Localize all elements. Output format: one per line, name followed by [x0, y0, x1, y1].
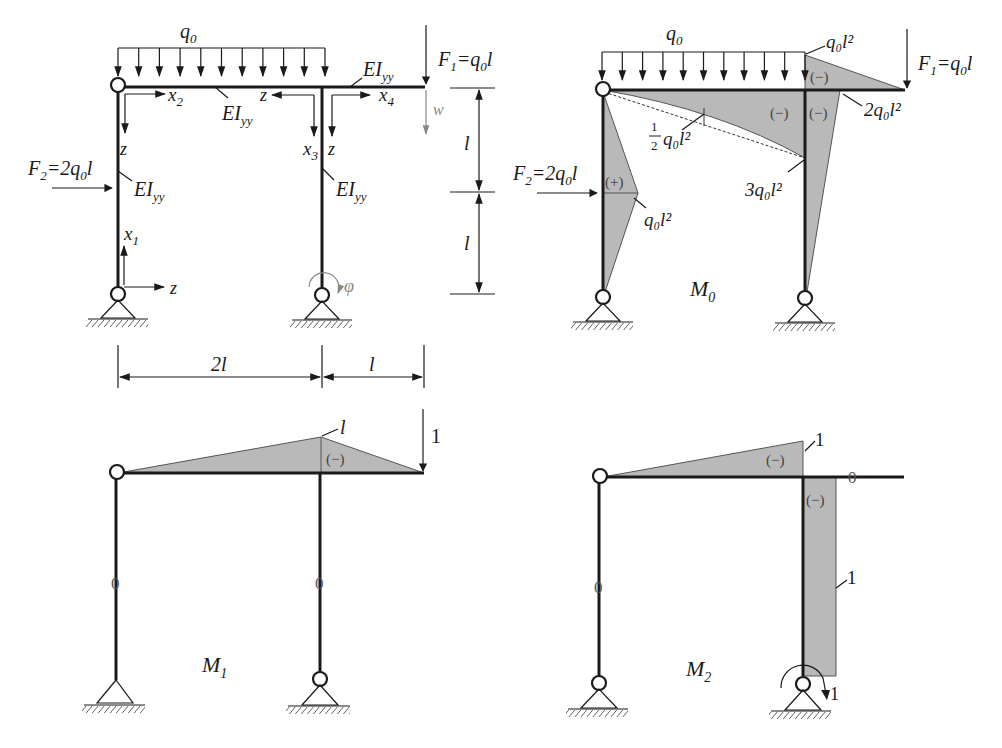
svg-text:EIyy: EIyy — [362, 58, 394, 84]
panel-title-M0: M0 — [689, 276, 715, 305]
panel-system: q0 φ F1=q0l — [27, 20, 495, 388]
zero-label: 0 — [594, 578, 603, 597]
support-right — [773, 291, 835, 331]
svg-text:EIyy: EIyy — [221, 102, 253, 128]
svg-text:w: w — [433, 101, 444, 118]
panel-title-M2: M2 — [685, 656, 711, 685]
svg-text:1: 1 — [651, 119, 658, 134]
force-F1: F1=q0l — [426, 25, 493, 84]
svg-text:1: 1 — [830, 684, 839, 704]
panel-M0: q0 F1=q0l F2=2q0l — [512, 22, 973, 331]
svg-text:2: 2 — [651, 138, 658, 153]
svg-text:(−): (−) — [806, 492, 824, 509]
displacement-w: w — [426, 90, 444, 134]
dimension-horizontal: 2l l — [118, 345, 424, 388]
label-q0: q0 — [180, 20, 197, 46]
svg-text:F1=q0l: F1=q0l — [437, 48, 493, 74]
force-F2: F2=2q0l — [27, 157, 112, 188]
hinge-corner — [111, 78, 125, 92]
panel-M2: 1 1 1 (−) (−) 0 0 M2 — [566, 429, 904, 719]
zero-label: 0 — [848, 468, 857, 487]
svg-text:z: z — [169, 278, 177, 298]
svg-text:(−): (−) — [809, 105, 827, 122]
support-left — [566, 676, 628, 717]
support-left — [86, 287, 148, 327]
svg-text:(−): (−) — [810, 69, 828, 86]
svg-text:q0: q0 — [666, 22, 683, 48]
svg-text:3q₀l²: 3q₀l² — [744, 179, 782, 200]
dimension-vertical: l l — [450, 88, 495, 294]
support-left — [82, 680, 145, 713]
svg-text:(−): (−) — [766, 452, 784, 469]
svg-text:(−): (−) — [326, 451, 344, 468]
svg-text:(+): (+) — [605, 174, 623, 191]
hinge-corner — [596, 82, 610, 96]
structural-frame-figure: q0 φ F1=q0l — [0, 0, 1002, 748]
svg-text:l: l — [340, 416, 346, 438]
zero-label: 0 — [111, 574, 120, 593]
svg-text:F2=2q0l: F2=2q0l — [512, 162, 578, 188]
svg-text:F1=q0l: F1=q0l — [917, 52, 973, 78]
m0-area-left-column — [603, 92, 638, 292]
support-left — [571, 290, 633, 330]
distributed-load-q0: q0 — [602, 22, 805, 80]
hinge-corner — [110, 465, 124, 479]
support-right — [769, 677, 831, 719]
svg-text:l: l — [369, 353, 375, 375]
svg-text:l: l — [464, 232, 470, 254]
svg-text:EIyy: EIyy — [335, 178, 367, 204]
svg-text:q₀l²: q₀l² — [644, 209, 671, 230]
svg-text:l: l — [464, 132, 470, 154]
svg-text:1: 1 — [815, 429, 825, 450]
svg-text:q₀l²: q₀l² — [826, 31, 853, 52]
distributed-load-q0: q0 — [118, 20, 325, 76]
support-right — [290, 288, 352, 328]
panel-M1: 1 l (−) 0 0 M1 — [82, 409, 441, 714]
m1-area-beam — [118, 437, 424, 473]
force-F1: F1=q0l — [907, 29, 973, 88]
svg-text:1: 1 — [431, 425, 441, 447]
svg-text:z: z — [119, 139, 127, 159]
svg-text:x1: x1 — [123, 223, 139, 248]
zero-label: 0 — [315, 574, 324, 593]
svg-text:1: 1 — [847, 567, 857, 588]
svg-text:2l: 2l — [211, 353, 227, 375]
unit-load: 1 — [423, 409, 441, 471]
svg-text:z: z — [259, 85, 267, 105]
svg-text:q₀l²: q₀l² — [663, 128, 690, 149]
force-F2: F2=2q0l — [512, 162, 597, 193]
stiffness-labels: EIyy EIyy EIyy EIyy — [118, 58, 394, 204]
svg-text:EIyy: EIyy — [133, 178, 165, 204]
support-right — [286, 672, 350, 714]
svg-text:F2=2q0l: F2=2q0l — [27, 157, 93, 183]
svg-text:2q₀l²: 2q₀l² — [864, 99, 901, 120]
svg-text:(−): (−) — [770, 105, 788, 122]
svg-text:x3: x3 — [302, 138, 318, 163]
hinge-corner — [593, 469, 607, 483]
svg-text:φ: φ — [344, 276, 354, 296]
panel-title-M1: M1 — [201, 652, 227, 681]
svg-text:z: z — [327, 139, 335, 159]
